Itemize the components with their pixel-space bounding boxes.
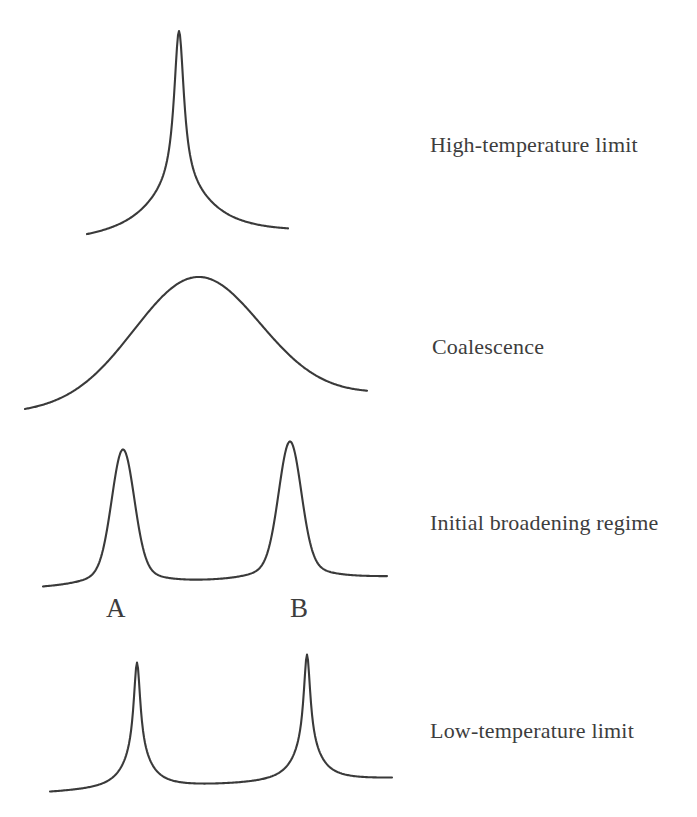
- curve-coalescence: [25, 277, 367, 409]
- nmr-lineshape-figure: High-temperature limit Coalescence Initi…: [0, 0, 697, 817]
- curve-high-temperature-limit: [87, 31, 288, 234]
- label-low-temperature-limit: Low-temperature limit: [430, 718, 634, 744]
- site-label-b: B: [290, 593, 308, 624]
- spectra-curves: [0, 0, 697, 817]
- label-initial-broadening-regime: Initial broadening regime: [430, 510, 659, 536]
- label-coalescence: Coalescence: [432, 334, 544, 360]
- curve-low-temperature-limit: [50, 655, 392, 792]
- label-high-temperature-limit: High-temperature limit: [430, 132, 638, 158]
- site-label-a: A: [106, 593, 126, 624]
- curve-initial-broadening-regime: [43, 441, 387, 586]
